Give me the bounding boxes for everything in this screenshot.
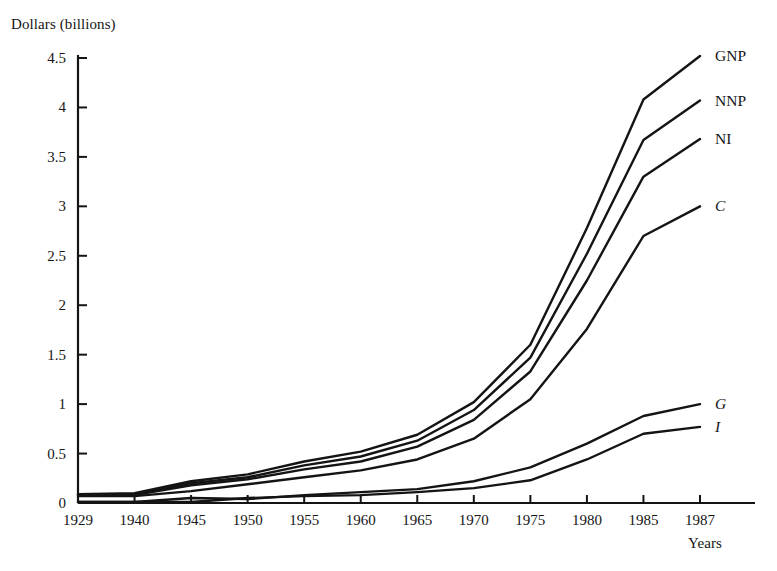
y-axis-tick-label: 2	[0, 297, 66, 314]
y-axis-tick-label: 3	[0, 198, 66, 215]
y-axis-tick-label: 3.5	[0, 148, 66, 165]
series-line-ni	[78, 139, 700, 495]
series-label-g: G	[715, 395, 726, 413]
x-axis-tick-label: 1965	[402, 512, 432, 529]
series-label-gnp: GNP	[715, 47, 746, 65]
x-axis-tick-label: 1955	[289, 512, 319, 529]
line-chart: Dollars (billions) Years 00.511.522.533.…	[0, 0, 777, 571]
x-axis-tick-label: 1960	[346, 512, 376, 529]
series-label-c: C	[715, 197, 725, 215]
y-axis-tick-label: 0	[0, 495, 66, 512]
y-axis-tick-label: 2.5	[0, 247, 66, 264]
x-axis-tick-label: 1975	[515, 512, 545, 529]
x-axis-tick-label: 1940	[120, 512, 150, 529]
series-label-nnp: NNP	[715, 92, 746, 110]
series-label-i: I	[715, 418, 720, 436]
series-label-ni: NI	[715, 130, 731, 148]
y-axis-tick-label: 1	[0, 396, 66, 413]
y-axis-tick-label: 4	[0, 99, 66, 116]
y-axis-tick-label: 0.5	[0, 445, 66, 462]
x-axis-tick-label: 1985	[628, 512, 658, 529]
series-line-c	[78, 206, 700, 496]
x-axis-tick-label: 1970	[459, 512, 489, 529]
x-axis-tick-label: 1950	[233, 512, 263, 529]
x-axis-tick-label: 1987	[685, 512, 715, 529]
x-axis-tick-label: 1929	[63, 512, 93, 529]
series-line-gnp	[78, 56, 700, 494]
x-axis-tick-label: 1945	[176, 512, 206, 529]
y-axis-tick-label: 4.5	[0, 50, 66, 67]
plot-area	[0, 0, 777, 571]
y-axis-tick-label: 1.5	[0, 346, 66, 363]
x-axis-tick-label: 1980	[572, 512, 602, 529]
series-lines	[78, 56, 700, 502]
